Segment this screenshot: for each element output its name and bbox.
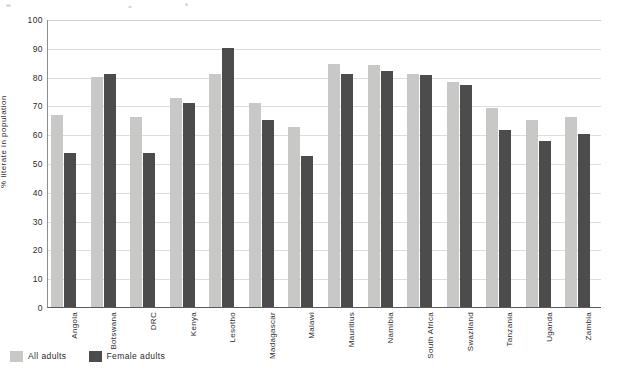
x-axis-tick: Zambia: [584, 284, 593, 312]
bar-all-adults: [565, 117, 577, 307]
bar-group: [562, 20, 602, 307]
y-axis-tick: 30: [3, 217, 43, 226]
bar-group: [246, 20, 286, 307]
x-axis-tick: Lesotho: [228, 281, 237, 312]
x-axis-tick-label: Tanzania: [505, 312, 514, 346]
x-axis-tick-label: Uganda: [545, 312, 554, 342]
x-axis-tick: Madagascar: [268, 265, 277, 312]
y-axis-tick-labels: 0102030405060708090100: [0, 20, 43, 308]
bar-all-adults: [447, 82, 459, 307]
y-axis-tick: 40: [3, 189, 43, 198]
bar-female-adults: [104, 74, 116, 307]
bar-female-adults: [143, 153, 155, 307]
y-axis-tick: 90: [3, 45, 43, 54]
bar-female-adults: [381, 71, 393, 307]
bar-all-adults: [170, 98, 182, 307]
bar-female-adults: [183, 103, 195, 307]
x-axis-tick-label: Mauritius: [347, 312, 356, 347]
x-axis-tick-label: Zambia: [584, 312, 593, 340]
bar-group: [167, 20, 207, 307]
bar-all-adults: [368, 65, 380, 307]
y-axis-tick: 60: [3, 131, 43, 140]
legend: All adultsFemale adults: [10, 348, 179, 364]
x-axis-tick-label: Lesotho: [228, 312, 237, 343]
scan-artifact: [128, 6, 132, 8]
x-axis-tick-label: Swaziland: [466, 312, 475, 351]
bar-all-adults: [209, 74, 221, 307]
bar-female-adults: [341, 74, 353, 307]
legend-label: All adults: [28, 351, 67, 361]
x-axis-tick-label: Malawi: [307, 312, 316, 339]
bar-group: [206, 20, 246, 307]
legend-entry: All adults: [10, 351, 67, 362]
x-axis-tick: Tanzania: [505, 278, 514, 312]
x-axis-tick: Botswana: [109, 274, 118, 312]
x-axis-tick-label: Kenya: [189, 312, 198, 336]
bar-group: [444, 20, 484, 307]
bar-all-adults: [328, 64, 340, 307]
y-axis-tick: 70: [3, 102, 43, 111]
bar-all-adults: [407, 74, 419, 307]
y-axis-tick: 100: [3, 16, 43, 25]
x-axis-tick: Namibia: [386, 281, 395, 312]
bar-group: [365, 20, 405, 307]
legend-swatch-icon: [89, 351, 102, 362]
x-axis-tick: Swaziland: [466, 273, 475, 312]
bar-group: [285, 20, 325, 307]
literacy-bar-chart: % literate in population 010203040506070…: [0, 0, 617, 371]
x-axis-tick: Angola: [70, 285, 79, 312]
x-axis-tick: Malawi: [307, 285, 316, 312]
bar-all-adults: [130, 117, 142, 307]
x-axis-tick: Mauritius: [347, 277, 356, 312]
legend-swatch-icon: [10, 351, 23, 362]
x-axis-tick-label: Angola: [70, 312, 79, 339]
bar-series-container: [48, 20, 601, 307]
bar-group: [523, 20, 563, 307]
y-axis-tick: 10: [3, 275, 43, 284]
x-axis-tick: South Africa: [426, 265, 435, 312]
legend-entry: Female adults: [89, 351, 166, 362]
bar-all-adults: [51, 115, 63, 307]
x-axis-tick-label: South Africa: [426, 312, 435, 359]
bar-group: [48, 20, 88, 307]
scan-artifact: [185, 3, 188, 6]
bar-group: [404, 20, 444, 307]
y-axis-tick: 20: [3, 246, 43, 255]
bar-all-adults: [288, 127, 300, 307]
bar-group: [127, 20, 167, 307]
bar-female-adults: [578, 134, 590, 307]
bar-group: [325, 20, 365, 307]
bar-all-adults: [249, 103, 261, 307]
y-axis-tick: 80: [3, 73, 43, 82]
x-axis-tick-label: DRC: [149, 312, 158, 330]
x-axis-tick: Kenya: [189, 288, 198, 312]
y-axis-tick: 50: [3, 160, 43, 169]
plot-area: [47, 20, 601, 308]
x-axis-tick: Uganda: [545, 282, 554, 312]
bar-all-adults: [486, 108, 498, 307]
bar-all-adults: [91, 77, 103, 307]
x-axis-tick-label: Botswana: [109, 312, 118, 350]
bar-all-adults: [526, 120, 538, 307]
legend-label: Female adults: [107, 351, 166, 361]
x-axis-tick-label: Madagascar: [268, 312, 277, 359]
x-axis-tick-label: Namibia: [386, 312, 395, 343]
bar-group: [483, 20, 523, 307]
y-axis-tick: 0: [3, 304, 43, 313]
bar-female-adults: [222, 48, 234, 307]
bar-female-adults: [64, 153, 76, 307]
bar-group: [88, 20, 128, 307]
x-axis-tick: DRC: [149, 294, 158, 312]
